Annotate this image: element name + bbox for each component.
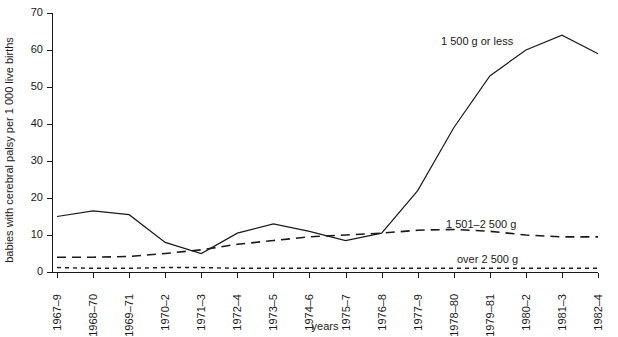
x-tick-label: 1976–8 [376, 294, 388, 331]
x-tick-label: 1967–9 [51, 294, 63, 331]
x-tick-label: 1981–3 [556, 294, 568, 331]
x-tick-label: 1977–9 [412, 294, 424, 331]
y-tick-label: 10 [31, 228, 43, 240]
x-tick-label: 1979–81 [484, 294, 496, 337]
x-tick-label: 1969–71 [123, 294, 135, 337]
series-line-dotted [57, 268, 598, 269]
series-label: 1 501–2 500 g [446, 218, 516, 230]
x-tick-label: 1975–7 [340, 294, 352, 331]
x-tick-label: 1978–80 [448, 294, 460, 337]
series-line-solid [57, 35, 598, 253]
x-tick-label: 1980–2 [520, 294, 532, 331]
y-tick-label: 70 [31, 6, 43, 18]
series-label: over 2 500 g [457, 253, 518, 265]
x-tick-label: 1971–3 [195, 294, 207, 331]
y-tick-label: 60 [31, 43, 43, 55]
y-tick-label: 30 [31, 154, 43, 166]
series-label: 1 500 g or less [441, 35, 514, 47]
y-tick-label: 50 [31, 80, 43, 92]
x-tick-label: 1972–4 [231, 294, 243, 331]
y-tick-group: 010203040506070 [31, 6, 53, 277]
x-tick-label: 1982–4 [592, 294, 604, 331]
y-tick-label: 40 [31, 117, 43, 129]
y-tick-label: 0 [37, 265, 43, 277]
data-series-group [57, 35, 598, 268]
x-tick-label: 1973–5 [267, 294, 279, 331]
line-chart: babies with cerebral palsy per 1 000 liv… [0, 0, 618, 337]
x-tick-label: 1970–2 [159, 294, 171, 331]
y-axis-title: babies with cerebral palsy per 1 000 liv… [3, 37, 15, 263]
x-tick-label: 1968–70 [87, 294, 99, 337]
y-tick-label: 20 [31, 191, 43, 203]
x-axis-title: years [312, 320, 339, 332]
y-axis: 010203040506070 [31, 6, 53, 277]
chart-figure: babies with cerebral palsy per 1 000 liv… [0, 0, 618, 337]
